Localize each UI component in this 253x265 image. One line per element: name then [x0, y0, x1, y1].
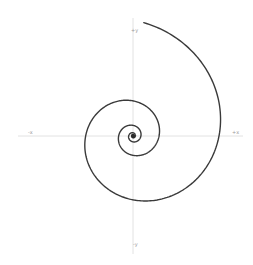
axis-label-pos-x: +x [232, 129, 239, 135]
logarithmic-spiral-curve [85, 23, 221, 201]
axis-label-neg-y: -y [133, 241, 138, 248]
axis-label-neg-x: -x [28, 129, 33, 135]
spiral-center-dot [131, 134, 135, 138]
spiral-diagram: +y -x +x -y [0, 0, 253, 265]
axis-label-pos-y: +y [131, 27, 138, 34]
